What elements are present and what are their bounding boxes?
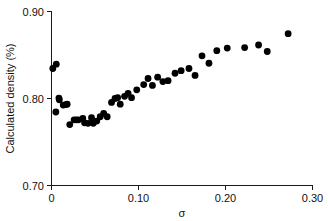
data-point <box>117 101 124 108</box>
x-tick-label: 0.30 <box>302 192 323 204</box>
data-point <box>165 77 172 84</box>
data-point <box>64 101 71 108</box>
data-point <box>140 81 147 88</box>
data-point <box>172 70 179 77</box>
data-point <box>213 47 220 54</box>
x-axis-title: σ <box>179 207 186 219</box>
y-axis-title: Calculated density (%) <box>4 43 16 153</box>
chart-canvas: 00.100.200.30 0.700.800.90 σ Calculated … <box>0 0 328 221</box>
data-point <box>192 72 199 79</box>
data-point <box>264 48 271 55</box>
x-tick-label: 0.10 <box>128 192 149 204</box>
data-point <box>104 113 111 120</box>
data-point <box>128 94 135 101</box>
data-point <box>241 44 248 51</box>
data-point <box>178 67 185 74</box>
y-axis-tick-labels: 0.700.800.90 <box>23 6 44 192</box>
axes <box>52 12 313 186</box>
x-tick-label: 0 <box>48 192 54 204</box>
data-point <box>206 60 213 67</box>
axis-ticks <box>47 12 313 191</box>
scatter-chart-figure: 00.100.200.30 0.700.800.90 σ Calculated … <box>0 0 328 221</box>
data-points <box>49 30 291 128</box>
data-point <box>186 65 193 72</box>
data-point <box>199 52 206 59</box>
x-tick-label: 0.20 <box>215 192 236 204</box>
data-point <box>285 30 292 37</box>
data-point <box>53 61 60 68</box>
data-point <box>154 74 161 81</box>
data-point <box>224 45 231 52</box>
y-tick-label: 0.80 <box>23 93 44 105</box>
data-point <box>145 75 152 82</box>
x-axis-tick-labels: 00.100.200.30 <box>48 192 323 204</box>
data-point <box>149 82 156 89</box>
data-point <box>52 109 59 116</box>
y-tick-label: 0.90 <box>23 6 44 18</box>
data-point <box>255 42 262 49</box>
y-tick-label: 0.70 <box>23 180 44 192</box>
data-point <box>114 94 121 101</box>
data-point <box>133 86 140 93</box>
